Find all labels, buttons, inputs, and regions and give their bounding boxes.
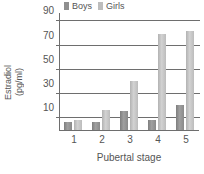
bar-boys-stage-2 xyxy=(92,122,100,130)
bar-boys-stage-1 xyxy=(64,122,72,130)
x-tick-label-5: 5 xyxy=(172,134,200,145)
bar-girls-stage-1 xyxy=(74,120,82,130)
bar-group-stage-2: 2 xyxy=(88,13,116,130)
bar-group-stage-4: 4 xyxy=(144,13,172,130)
legend-entry-boys: Boys xyxy=(64,1,92,11)
plot-area: 1030507090 12345 xyxy=(59,13,199,131)
y-tick-label-50: 50 xyxy=(43,55,54,65)
x-tick-label-2: 2 xyxy=(88,134,116,145)
y-tick-label-10: 10 xyxy=(43,103,54,113)
bar-girls-stage-4 xyxy=(158,34,166,130)
bar-boys-stage-3 xyxy=(120,111,128,130)
bar-boys-stage-4 xyxy=(148,120,156,130)
bar-boys-stage-5 xyxy=(176,105,184,130)
bar-group-stage-1: 1 xyxy=(60,13,88,130)
y-tick-label-70: 70 xyxy=(43,31,54,41)
x-axis-title: Pubertal stage xyxy=(59,152,199,163)
legend-label-boys: Boys xyxy=(72,1,92,11)
chart-legend: Boys Girls xyxy=(64,0,182,12)
x-tick-label-3: 3 xyxy=(116,134,144,145)
y-axis-title: Estradiol (pg/ml) xyxy=(0,28,26,136)
x-tick-label-1: 1 xyxy=(60,134,88,145)
y-tick-label-30: 30 xyxy=(43,79,54,89)
y-tick-label-90: 90 xyxy=(43,6,54,16)
legend-entry-girls: Girls xyxy=(98,1,125,11)
bar-series-container: 12345 xyxy=(60,13,200,130)
x-tick-label-4: 4 xyxy=(144,134,172,145)
bar-group-stage-3: 3 xyxy=(116,13,144,130)
y-axis-title-line-2: (pg/ml) xyxy=(13,28,25,136)
bar-girls-stage-3 xyxy=(130,81,138,130)
legend-swatch-boys-icon xyxy=(64,2,69,10)
legend-swatch-girls-icon xyxy=(98,2,103,10)
bar-girls-stage-5 xyxy=(186,31,194,130)
bar-group-stage-5: 5 xyxy=(172,13,200,130)
bar-girls-stage-2 xyxy=(102,110,110,131)
legend-label-girls: Girls xyxy=(106,1,125,11)
estradiol-pubertal-stage-bar-chart: Boys Girls Estradiol (pg/ml) 1030507090 … xyxy=(0,0,204,174)
